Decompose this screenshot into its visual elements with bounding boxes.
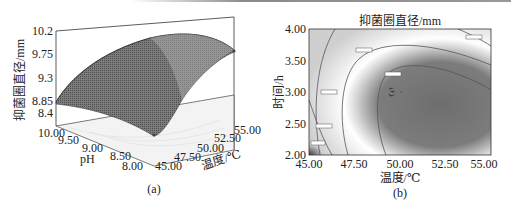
z-axis-ticks: 10.2 9.75 9.3 8.85 8.4 xyxy=(32,24,53,120)
contour-x-ticks: 45.00 47.50 50.00 52.50 55.00 xyxy=(296,157,498,171)
x-tick: 9.50 xyxy=(58,133,79,147)
caption-b: (b) xyxy=(393,186,407,200)
z-tick: 10.2 xyxy=(32,24,53,38)
x-tick: 50.00 xyxy=(387,157,414,171)
y-tick: 4.00 xyxy=(285,22,306,36)
panel-a-surface-plot: 10.2 9.75 9.3 8.85 8.4 抑菌圈直径/mm 10.00 9.… xyxy=(12,17,261,196)
y-tick: 2.50 xyxy=(285,117,306,131)
caption-a: (a) xyxy=(147,182,160,196)
z-axis-label: 抑菌圈直径/mm xyxy=(12,38,27,121)
y-tick: 55.00 xyxy=(234,123,261,137)
contour-y-ticks: 4.00 3.50 3.00 2.50 2.00 xyxy=(285,22,306,162)
x-axis-label: pH xyxy=(80,152,95,166)
y-axis-label: 时间/h xyxy=(272,75,286,108)
x-tick: 55.00 xyxy=(471,157,498,171)
x-axis-label: 温度/℃ xyxy=(380,170,421,185)
z-tick: 9.3 xyxy=(38,71,53,85)
contour-title: 抑菌圈直径/mm xyxy=(359,13,442,28)
x-tick: 45.00 xyxy=(296,157,323,171)
figure-canvas: 10.2 9.75 9.3 8.85 8.4 抑菌圈直径/mm 10.00 9.… xyxy=(0,0,511,208)
x-tick: 8.00 xyxy=(122,159,143,173)
design-point xyxy=(400,91,402,93)
x-tick: 52.50 xyxy=(432,157,459,171)
design-point-label: 3 xyxy=(389,84,396,99)
z-tick: 8.4 xyxy=(38,106,53,120)
z-tick: 9.75 xyxy=(32,47,53,61)
panel-b-contour-plot: 抑菌圈直径/mm 3 4.00 3.50 3.00 2.5 xyxy=(272,13,498,200)
y-tick: 3.50 xyxy=(285,54,306,68)
y-tick: 3.00 xyxy=(285,85,306,99)
x-tick: 47.50 xyxy=(341,157,368,171)
